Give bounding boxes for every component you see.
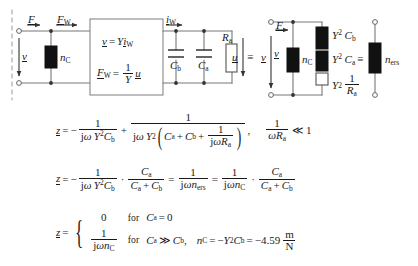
figure-canvas: F FW v nC v=YiW FW = 1Y u iW Cb Ca Ra u … [0,0,418,266]
case-row-1: 0 for Ca = 0 [87,212,298,223]
terminal-top-left [17,29,22,34]
label-branch-y2ca: Y2 Ca [332,53,355,66]
terminal-top-right [269,20,274,25]
capacitor-cb [168,50,184,57]
label-res-ra: Ra [222,32,232,45]
label-compliance-nc-right: nC [302,54,312,67]
terminal-bottom-right [269,93,274,98]
paren-close: ) [237,129,242,144]
gyrator-equation-1: v=YiW [102,36,133,49]
node-dot [49,81,53,85]
node-dot [49,29,53,33]
branch-y2ca-element [316,51,328,71]
label-ners: ners [385,54,399,67]
terminal-top-ners [373,20,378,25]
node-dot [174,81,178,85]
branch-y2cb-element [316,27,328,49]
label-voltage-u: u [232,52,238,63]
label-velocity-v-right: v [274,48,279,59]
label-equiv-v: v [261,52,266,63]
case-row-2: 1 jωnC for Ca ≫ Cb , nC = −Y2Cb = −4.59 [87,228,298,253]
capacitor-ca [196,50,212,57]
equation-line-1: z = − 1 jω Y2Cb + 1 jω Y2 ( Ca + Cb + [56,112,312,149]
label-compliance-nc: nC [60,52,70,65]
equation-line-2: z = − 1 jω Y2Cb · Ca Ca+Cb = 1 jωners = … [56,166,297,192]
node-dot [174,29,178,33]
node-dot [202,29,206,33]
label-force-F-right: F [276,20,283,31]
terminal-bottom-left [17,81,22,86]
label-cap-cb: Cb [170,60,181,73]
node-dot [291,20,295,24]
equivalence-symbol-2: ≡ [357,54,363,65]
equivalence-symbol-1: ≡ [247,52,253,63]
branch-y2ra-element [316,73,328,85]
case-brace: { [75,223,83,242]
label-branch-y2ra: Y2 1 Ra [332,73,361,98]
label-force-FW: FW [57,14,71,27]
label-branch-y2cb: Y2 Cb [332,29,356,42]
compliance-nc-element [45,46,57,68]
node-dot [202,81,206,85]
node-dot [291,93,295,97]
label-force-F: F [28,14,35,25]
compliance-ners-element [369,43,381,73]
equation-line-3: z = { 0 for Ca = 0 1 jωnC [56,212,298,253]
label-velocity-v: v [22,51,27,62]
terminal-bottom-ners [373,93,378,98]
label-current-iw: iW [166,14,176,27]
gyrator-equation-2: FW = 1Y u [97,62,141,85]
paren-open: ( [158,129,163,144]
label-cap-ca: Ca [198,60,209,73]
compliance-nc-element-right [287,48,299,72]
